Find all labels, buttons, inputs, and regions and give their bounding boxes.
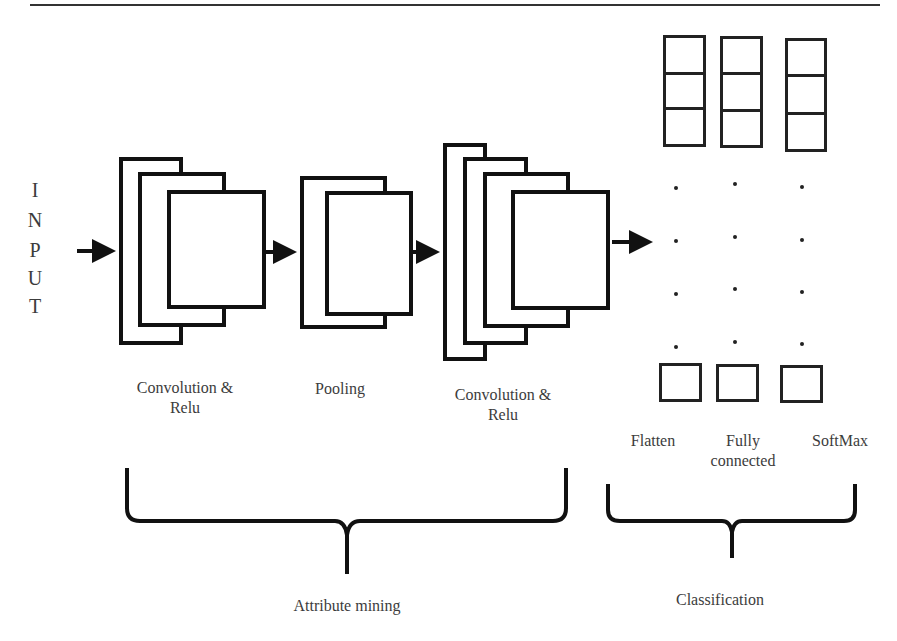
curly-brace-icon [608, 484, 855, 558]
label-line: Convolution & [438, 385, 568, 405]
conv1-label: Convolution & Relu [120, 378, 250, 418]
label-line: Fully [698, 431, 788, 451]
label-line: Relu [438, 405, 568, 425]
connectors [0, 0, 897, 641]
label-line: connected [698, 451, 788, 471]
label-line: SoftMax [800, 431, 880, 451]
classification-label: Classification [660, 590, 780, 610]
label-line: Flatten [613, 431, 693, 451]
conv2-label: Convolution & Relu [438, 385, 568, 425]
attribute-mining-label: Attribute mining [272, 596, 422, 616]
softmax-label: SoftMax [800, 431, 880, 451]
flatten-label: Flatten [613, 431, 693, 451]
curly-brace-icon [127, 468, 566, 574]
label-line: Convolution & [120, 378, 250, 398]
fully-connected-label: Fully connected [698, 431, 788, 471]
pooling-label: Pooling [300, 379, 380, 399]
label-line: Pooling [300, 379, 380, 399]
label-line: Relu [120, 398, 250, 418]
